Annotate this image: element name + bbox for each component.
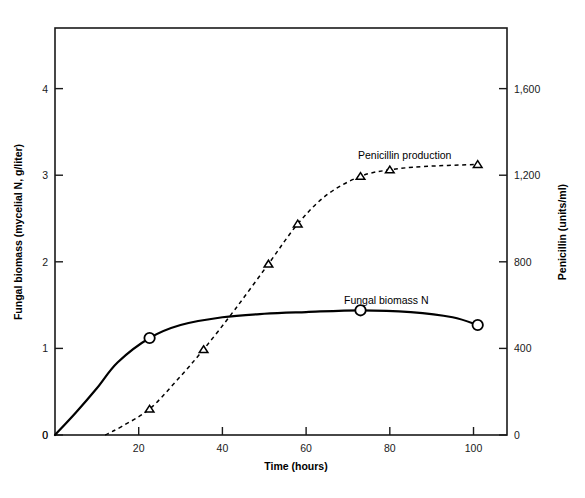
left-y-tick-label: 3 [42,169,48,181]
x-tick-label: 80 [384,442,396,454]
right-y-tick-label: 400 [514,342,532,354]
right-y-tick-label: 800 [514,256,532,268]
x-tick-label: 100 [465,442,483,454]
penicillin-production-markers [145,161,482,412]
data-point-marker-triangle [199,346,208,353]
x-axis-title: Time (hours) [264,460,327,472]
x-tick-label: 40 [217,442,229,454]
data-point-marker-circle [355,305,365,315]
fungal-biomass-series-label: Fungal biomass N [344,294,429,306]
data-point-marker-circle [144,333,154,343]
right-y-tick-label: 1,200 [514,169,540,181]
data-point-marker-triangle [385,166,394,173]
data-point-marker-triangle [356,173,365,180]
left-axis-ticks: 01234 [42,83,63,441]
x-tick-label: 20 [133,442,145,454]
x-tick-label: 60 [300,442,312,454]
penicillin-series-label: Penicillin production [358,149,452,161]
right-y-tick-label: 0 [514,429,520,441]
right-y-axis-title: Penicillin (units/ml) [556,184,568,280]
fungal-biomass-curve [55,310,478,435]
data-point-marker-triangle [264,260,273,267]
right-y-tick-label: 1,600 [514,83,540,95]
data-point-marker-triangle [473,161,482,168]
biomass-penicillin-chart: 01234 04008001,2001,600 020406080100 Pen… [0,0,585,498]
left-y-tick-label: 2 [42,256,48,268]
data-point-marker-circle [473,320,483,330]
x-tick-label: 0 [42,429,48,441]
plot-frame [55,28,507,435]
left-y-tick-label: 4 [42,83,48,95]
x-axis-ticks: 020406080100 [42,427,482,454]
chart-figure: 01234 04008001,2001,600 020406080100 Pen… [0,0,585,498]
right-axis-ticks: 04008001,2001,600 [499,83,540,441]
left-y-tick-label: 1 [42,342,48,354]
left-y-axis-title: Fungal biomass (mycelial N, g/liter) [12,144,24,320]
